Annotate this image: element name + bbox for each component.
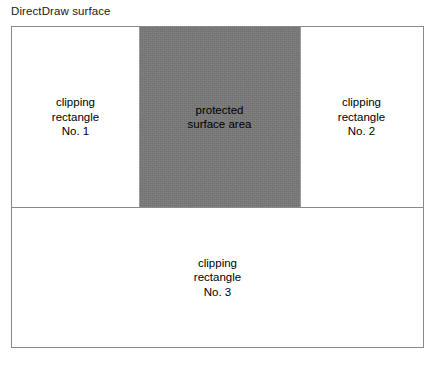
clipping-rectangle-3-region: clipping rectangle No. 3 (12, 208, 423, 347)
clipping-rectangle-1-region: clipping rectangle No. 1 (12, 27, 139, 207)
clipping-rectangle-1-label: clipping rectangle No. 1 (52, 95, 99, 139)
surface-top-band: clipping rectangle No. 1 protected surfa… (12, 27, 423, 207)
diagram-canvas: DirectDraw surface clipping rectangle No… (0, 0, 437, 367)
clipping-rectangle-3-label: clipping rectangle No. 3 (194, 256, 241, 300)
protected-surface-area-label: protected surface area (188, 103, 252, 132)
protected-surface-area-region: protected surface area (139, 27, 300, 207)
clipping-rectangle-2-label: clipping rectangle No. 2 (338, 95, 385, 139)
figure-title: DirectDraw surface (11, 4, 111, 18)
protected-area-left-edge (139, 27, 140, 207)
clipping-rectangle-2-region: clipping rectangle No. 2 (300, 27, 423, 207)
directdraw-surface-frame: clipping rectangle No. 1 protected surfa… (11, 26, 424, 348)
protected-area-right-edge (300, 27, 301, 207)
